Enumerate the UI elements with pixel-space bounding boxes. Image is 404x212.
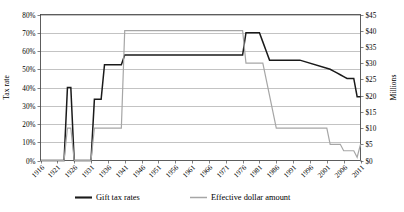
- y-axis-left-tick-label: 80%: [22, 12, 35, 20]
- y-axis-left-labels: 0%10%20%30%40%50%60%70%80%: [22, 12, 40, 166]
- x-axis-tick-label: 1946: [131, 163, 147, 179]
- x-axis-tick-label: 1926: [63, 163, 79, 179]
- x-axis-tick-label: 1931: [80, 163, 96, 179]
- legend-label-effective-dollar-amount: Effective dollar amount: [211, 193, 291, 202]
- y-axis-left-tick-label: 70%: [22, 30, 35, 38]
- x-axis-tick-label: 1921: [46, 163, 62, 179]
- x-axis-tick-label: 1961: [181, 163, 197, 179]
- x-axis-tick-label: 1981: [248, 163, 264, 179]
- x-axis-labels: 1916192119261931193619411946195119561961…: [30, 163, 366, 179]
- x-axis-tick-label: 1976: [232, 163, 248, 179]
- x-axis-tick-label: 1986: [265, 163, 281, 179]
- plot-frame: [41, 15, 361, 161]
- chart-canvas: 0%10%20%30%40%50%60%70%80% $0$5$10$15$20…: [0, 0, 404, 212]
- y-axis-left-title: Tax rate: [2, 75, 11, 100]
- series-line-effective-dollar-amount: [41, 31, 361, 161]
- x-axis-tick-label: 1966: [198, 163, 214, 179]
- y-axis-left-tick-label: 30%: [22, 103, 35, 111]
- gift-tax-chart: 0%10%20%30%40%50%60%70%80% $0$5$10$15$20…: [0, 0, 404, 212]
- y-axis-right-tick-label: $35: [366, 44, 377, 52]
- y-axis-right-tick-label: $25: [366, 76, 377, 84]
- x-axis-tick-label: 1971: [215, 163, 231, 179]
- y-axis-right-tick-label: $0: [366, 158, 374, 166]
- series-line-gift-tax-rates: [41, 33, 361, 161]
- x-axis-tick-label: 2006: [333, 163, 349, 179]
- y-axis-right-tick-label: $40: [366, 28, 377, 36]
- y-axis-right-tick-label: $10: [366, 125, 377, 133]
- x-axis-tick-label: 1951: [147, 163, 163, 179]
- x-axis-tick-label: 2001: [316, 163, 332, 179]
- y-axis-left-tick-label: 10%: [22, 139, 35, 147]
- y-axis-right-tick-label: $20: [366, 93, 377, 101]
- x-axis-tick-label: 2011: [350, 163, 366, 179]
- chart-legend: Gift tax ratesEffective dollar amount: [75, 193, 291, 202]
- y-axis-left-tick-label: 40%: [22, 85, 35, 93]
- y-axis-right-labels: $0$5$10$15$20$25$30$35$40$45: [361, 12, 377, 166]
- y-axis-right-tick-label: $15: [366, 109, 377, 117]
- axis-titles: Tax rateMillions: [2, 75, 398, 101]
- y-axis-right-tick-label: $45: [366, 12, 377, 20]
- y-axis-left-tick-label: 60%: [22, 48, 35, 56]
- plot-area-border: [41, 15, 361, 161]
- x-axis-tick-label: 1936: [97, 163, 113, 179]
- legend-label-gift-tax-rates: Gift tax rates: [96, 193, 140, 202]
- data-series: [41, 31, 361, 161]
- gridlines: [41, 16, 361, 143]
- x-axis-tick-label: 1956: [164, 163, 180, 179]
- y-axis-left-tick-label: 20%: [22, 121, 35, 129]
- x-axis-tick-label: 1996: [299, 163, 315, 179]
- y-axis-right-tick-label: $5: [366, 141, 374, 149]
- y-axis-left-tick-label: 50%: [22, 66, 35, 74]
- y-axis-left-tick-label: 0%: [26, 158, 36, 166]
- x-axis-tick-label: 1991: [282, 163, 298, 179]
- y-axis-right-tick-label: $30: [366, 60, 377, 68]
- x-axis-tick-label: 1941: [114, 163, 130, 179]
- y-axis-right-title: Millions: [389, 75, 398, 101]
